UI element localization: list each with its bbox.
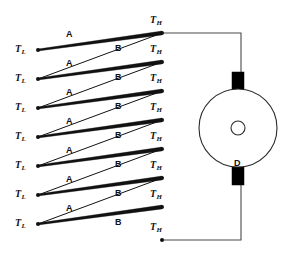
disk-assembly bbox=[199, 72, 277, 185]
hot-junction-label-4: TH bbox=[150, 102, 162, 112]
hot-junction-node-8 bbox=[160, 238, 164, 242]
cold-junction-node-4 bbox=[36, 135, 40, 139]
leg-a-line-7 bbox=[38, 205, 162, 225]
leg-a-line-6 bbox=[38, 176, 162, 196]
temp-subscript: H bbox=[156, 106, 161, 114]
hot-junction-node-3 bbox=[160, 89, 164, 93]
hot-junction-label-3: TH bbox=[150, 73, 162, 83]
temp-subscript: L bbox=[21, 77, 25, 85]
leg-b-label-4: B bbox=[115, 131, 122, 140]
leg-a-label-6: A bbox=[66, 175, 73, 184]
disk-top-contact-block bbox=[232, 72, 244, 90]
hot-junction-node-7 bbox=[160, 205, 164, 209]
hot-junction-label-8: TH bbox=[150, 222, 162, 232]
leg-b-label-5: B bbox=[115, 160, 122, 169]
leg-a-line-5 bbox=[38, 147, 162, 167]
leg-a-label-2: A bbox=[66, 59, 73, 68]
cold-junction-node-5 bbox=[36, 164, 40, 168]
leg-a-label-7: A bbox=[66, 204, 73, 213]
hot-junction-label-7: TH bbox=[150, 189, 162, 199]
temp-subscript: H bbox=[156, 164, 161, 172]
cold-junction-label-7: TL bbox=[15, 218, 25, 228]
hot-junction-label-6: TH bbox=[150, 160, 162, 170]
cold-junction-node-1 bbox=[36, 48, 40, 52]
temp-subscript: L bbox=[21, 164, 25, 172]
hot-junction-node-2 bbox=[160, 60, 164, 64]
leg-a-label-3: A bbox=[66, 88, 73, 97]
leg-a-line-1 bbox=[38, 31, 162, 51]
bottom-wire bbox=[162, 185, 241, 240]
temp-subscript: H bbox=[156, 135, 161, 143]
leg-a-line-3 bbox=[38, 89, 162, 109]
temp-subscript: H bbox=[156, 19, 161, 27]
temp-subscript: H bbox=[156, 226, 161, 234]
hot-junction-node-1 bbox=[160, 31, 164, 35]
disk-bottom-contact-block bbox=[232, 167, 244, 185]
temp-subscript: H bbox=[156, 77, 161, 85]
disk-center-hub bbox=[231, 121, 245, 135]
cold-junction-node-3 bbox=[36, 106, 40, 110]
temp-subscript: L bbox=[21, 48, 25, 56]
cold-junction-node-7 bbox=[36, 222, 40, 226]
leg-b-label-2: B bbox=[115, 73, 122, 82]
cold-junction-label-4: TL bbox=[15, 131, 25, 141]
leg-a-line-2 bbox=[38, 60, 162, 80]
leg-b-label-3: B bbox=[115, 102, 122, 111]
leg-a-line-4 bbox=[38, 118, 162, 138]
thermocouple-array-diagram bbox=[0, 0, 288, 256]
top-wire bbox=[162, 33, 241, 72]
diagram-canvas: TLTLTLTLTLTLTLTHTHTHTHTHTHTHTHAAAAAAABBB… bbox=[0, 0, 288, 256]
leg-a-label-5: A bbox=[66, 146, 73, 155]
hot-junction-node-6 bbox=[160, 176, 164, 180]
temp-subscript: H bbox=[156, 193, 161, 201]
temp-subscript: L bbox=[21, 193, 25, 201]
temp-subscript: L bbox=[21, 222, 25, 230]
disk-label: D bbox=[234, 159, 241, 168]
hot-junction-label-2: TH bbox=[150, 44, 162, 54]
leg-a-lines bbox=[38, 31, 162, 225]
leg-b-label-1: B bbox=[115, 44, 122, 53]
leg-b-label-6: B bbox=[115, 189, 122, 198]
hot-junction-label-5: TH bbox=[150, 131, 162, 141]
hot-junction-node-5 bbox=[160, 147, 164, 151]
cold-junction-node-2 bbox=[36, 77, 40, 81]
leg-a-label-1: A bbox=[66, 30, 73, 39]
temp-subscript: H bbox=[156, 48, 161, 56]
cold-junction-label-3: TL bbox=[15, 102, 25, 112]
hot-junction-label-1: TH bbox=[150, 15, 162, 25]
temp-subscript: L bbox=[21, 106, 25, 114]
cold-junction-label-1: TL bbox=[15, 44, 25, 54]
hot-junction-node-4 bbox=[160, 118, 164, 122]
leg-a-label-4: A bbox=[66, 117, 73, 126]
leg-b-label-7: B bbox=[115, 218, 122, 227]
cold-junction-label-2: TL bbox=[15, 73, 25, 83]
cold-junction-label-6: TL bbox=[15, 189, 25, 199]
cold-junction-label-5: TL bbox=[15, 160, 25, 170]
cold-junction-node-6 bbox=[36, 193, 40, 197]
temp-subscript: L bbox=[21, 135, 25, 143]
